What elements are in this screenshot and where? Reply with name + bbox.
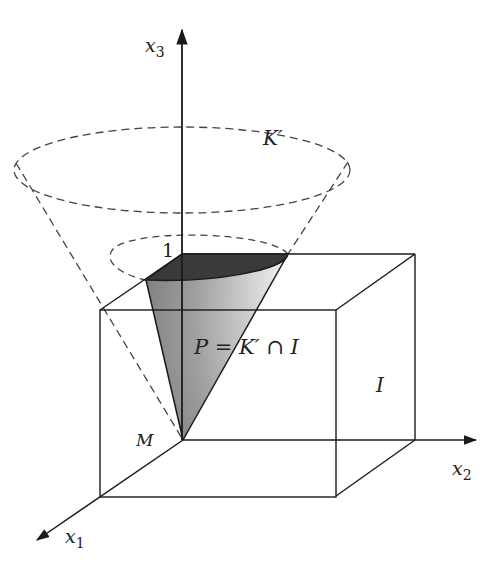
cone-label: K′ bbox=[262, 126, 283, 150]
x1-axis[interactable] bbox=[37, 440, 183, 540]
x1-axis-label: x1 bbox=[65, 525, 85, 551]
intersection-label: P = K′ ∩ I bbox=[193, 335, 299, 359]
cone-box-diagram: x3 x2 x1 K′ 1 P = K′ ∩ I I M bbox=[0, 0, 493, 567]
x2-axis-label: x2 bbox=[452, 457, 472, 483]
cone-right-generator bbox=[288, 162, 348, 254]
origin-label: M bbox=[135, 430, 154, 450]
unit-height-label: 1 bbox=[162, 239, 174, 261]
box-label: I bbox=[375, 373, 385, 397]
x3-axis-label: x3 bbox=[145, 34, 165, 60]
box-edge bbox=[336, 254, 415, 310]
diagram-canvas: x3 x2 x1 K′ 1 P = K′ ∩ I I M bbox=[0, 0, 493, 567]
box-edge bbox=[336, 440, 415, 496]
